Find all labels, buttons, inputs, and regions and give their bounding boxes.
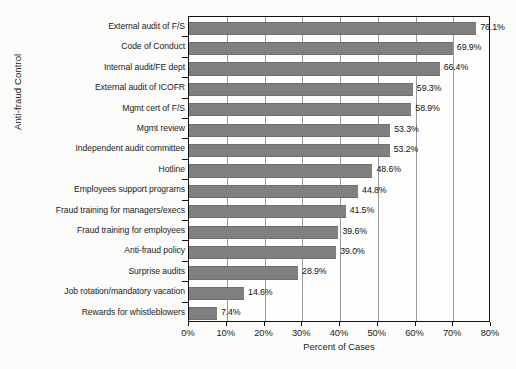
category-label: Hotline [20, 164, 185, 174]
y-axis-tick [182, 200, 188, 201]
bar-value-label: 14.6% [248, 287, 272, 298]
bar [189, 287, 244, 300]
bar-value-label: 66.4% [444, 62, 468, 73]
category-label: Employees support programs [20, 184, 185, 194]
category-label: External audit of ICOFR [20, 82, 185, 92]
bar [189, 205, 346, 218]
plot-area: 76.1%69.9%66.4%59.3%58.9%53.3%53.2%48.6%… [188, 16, 490, 322]
x-axis-tick [490, 322, 491, 326]
category-label: Job rotation/mandatory vacation [20, 286, 185, 296]
bar-value-label: 59.3% [417, 83, 441, 94]
bar [189, 124, 390, 137]
x-axis-title: Percent of Cases [188, 342, 490, 352]
bar [189, 246, 336, 259]
y-axis-tick [182, 240, 188, 241]
bar-value-label: 48.6% [376, 164, 400, 175]
bar-value-label: 53.3% [394, 124, 418, 135]
bar-value-label: 39.6% [342, 226, 366, 237]
category-label: Fraud training for managers/execs [20, 205, 185, 215]
bar [189, 226, 338, 239]
x-axis-tick [339, 322, 340, 326]
bar-chart-figure: Anti-fraud Control External audit of F/S… [0, 0, 516, 369]
x-axis-tick-label: 30% [281, 328, 321, 338]
bar [189, 164, 372, 177]
category-label: Fraud training for employees [20, 225, 185, 235]
category-label-column: External audit of F/SCode of ConductInte… [20, 16, 185, 322]
x-axis-tick-label: 70% [432, 328, 472, 338]
bar-value-label: 7.4% [221, 307, 241, 318]
bar-value-label: 69.9% [457, 42, 481, 53]
bar [189, 22, 476, 35]
bar-value-label: 76.1% [480, 22, 504, 33]
x-axis-tick [188, 322, 189, 326]
bar [189, 62, 440, 75]
category-label: Mgmt cert of F/S [20, 103, 185, 113]
x-axis-tick-label: 20% [244, 328, 284, 338]
y-axis-tick [182, 281, 188, 282]
x-axis-tick [226, 322, 227, 326]
x-axis-tick [452, 322, 453, 326]
x-axis-tick-label: 60% [395, 328, 435, 338]
bar-value-label: 39.0% [340, 246, 364, 257]
x-axis-tick [301, 322, 302, 326]
y-axis-tick [182, 57, 188, 58]
category-label: Anti-fraud policy [20, 245, 185, 255]
bar [189, 103, 411, 116]
category-label: Code of Conduct [20, 41, 185, 51]
bar-value-label: 41.5% [350, 205, 374, 216]
category-label: Surprise audits [20, 266, 185, 276]
y-axis-tick [182, 77, 188, 78]
bar [189, 266, 298, 279]
category-label: External audit of F/S [20, 21, 185, 31]
bar-value-label: 28.9% [302, 266, 326, 277]
x-axis-tick [377, 322, 378, 326]
bar [189, 144, 390, 157]
bar-value-label: 53.2% [394, 144, 418, 155]
x-axis-tick [415, 322, 416, 326]
x-axis-tick-label: 40% [319, 328, 359, 338]
y-axis-tick [182, 159, 188, 160]
x-axis-tick-label: 50% [357, 328, 397, 338]
y-axis-tick [182, 261, 188, 262]
bar-value-label: 58.9% [415, 103, 439, 114]
category-label: Internal audit/FE dept [20, 62, 185, 72]
category-label: Independent audit committee [20, 143, 185, 153]
y-axis-tick [182, 138, 188, 139]
bar-value-label: 44.8% [362, 185, 386, 196]
bar [189, 307, 217, 320]
y-axis-tick [182, 98, 188, 99]
y-axis-tick [182, 220, 188, 221]
y-axis-tick [182, 36, 188, 37]
x-axis-tick [264, 322, 265, 326]
x-axis-tick-label: 80% [470, 328, 510, 338]
x-axis-tick-label: 10% [206, 328, 246, 338]
bar [189, 185, 358, 198]
scan-bleed-artifact [44, 360, 384, 368]
x-axis-tick-label: 0% [168, 328, 208, 338]
y-axis-tick [182, 118, 188, 119]
bar [189, 42, 453, 55]
category-label: Rewards for whistleblowers [20, 307, 185, 317]
y-axis-tick [182, 302, 188, 303]
bar [189, 83, 413, 96]
category-label: Mgmt review [20, 123, 185, 133]
y-axis-tick [182, 179, 188, 180]
